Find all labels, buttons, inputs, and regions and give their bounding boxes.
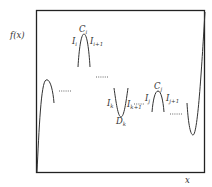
- diagram-canvas: f(x) x Ci Ii Ii+1 Ik Ik+1 Dk Ij Ij+1 Cj: [0, 0, 212, 187]
- curve-right: [187, 12, 205, 135]
- x-axis-label: x: [185, 175, 190, 185]
- curve-peak-ci: [78, 34, 90, 67]
- label-i-k: Ik: [106, 98, 114, 109]
- plot-frame: [37, 11, 205, 173]
- curve-peak-cj: [152, 91, 164, 112]
- label-i-j-plus-1: Ij+1: [165, 93, 179, 105]
- label-i-j: Ij: [144, 93, 150, 105]
- curve-valley-dk: [114, 88, 128, 117]
- label-i-i: Ii: [71, 36, 77, 47]
- curve-left-peak: [37, 80, 54, 172]
- label-d-k: Dk: [115, 116, 127, 127]
- y-axis-label: f(x): [9, 30, 25, 40]
- label-i-i-plus-1: Ii+1: [89, 36, 103, 47]
- label-c-i: Ci: [79, 24, 88, 35]
- label-i-k-plus-1: Ik+1: [126, 99, 142, 110]
